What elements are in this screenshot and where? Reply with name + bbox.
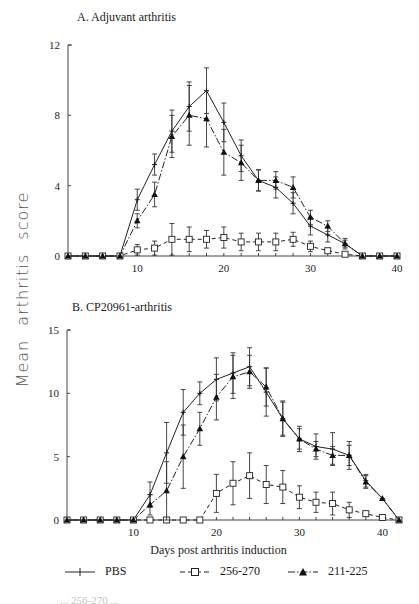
svg-text:40: 40 (377, 526, 389, 538)
svg-text:0: 0 (55, 250, 61, 262)
open-square-marker-icon (180, 567, 210, 577)
legend-label: 256-270 (220, 564, 260, 579)
series-211-225 (65, 85, 401, 258)
panel-a-title: A. Adjuvant arthritis (77, 10, 176, 25)
svg-text:0: 0 (54, 514, 60, 526)
svg-text:15: 15 (48, 324, 60, 336)
svg-text:4: 4 (55, 180, 61, 192)
panel-b-plot: 05101510203040 (48, 324, 402, 538)
panel-b-title: B. CP20961-arthritis (72, 300, 172, 315)
panel-a-plot: 0481210203040 (49, 39, 403, 274)
legend-label: PBS (105, 564, 126, 579)
svg-text:12: 12 (49, 39, 60, 51)
svg-text:20: 20 (211, 526, 223, 538)
svg-text:30: 30 (305, 262, 317, 274)
legend-item-211-225: 211-225 (288, 564, 368, 579)
caption-fragment: ... 256-270 ... (60, 594, 119, 604)
legend-item-256-270: 256-270 (180, 564, 260, 579)
svg-text:10: 10 (128, 526, 140, 538)
figure-canvas: 048121020304005101510203040 (0, 0, 419, 604)
svg-text:20: 20 (218, 262, 230, 274)
y-axis-label: Mean arthritis score (13, 190, 32, 390)
filled-triangle-marker-icon (288, 567, 318, 577)
svg-text:40: 40 (392, 262, 404, 274)
plus-marker-icon (65, 567, 95, 577)
svg-text:10: 10 (48, 387, 60, 399)
svg-text:5: 5 (54, 451, 60, 463)
legend: PBS 256-270 211-225 (0, 564, 419, 580)
svg-text:8: 8 (55, 109, 61, 121)
legend-label: 211-225 (328, 564, 368, 579)
series-256-270 (65, 223, 400, 259)
series-PBS (66, 68, 400, 259)
svg-text:10: 10 (132, 262, 144, 274)
series-256-270 (64, 453, 402, 523)
svg-text:30: 30 (294, 526, 306, 538)
legend-item-pbs: PBS (65, 564, 126, 579)
x-axis-label: Days post arthritis induction (0, 543, 419, 558)
